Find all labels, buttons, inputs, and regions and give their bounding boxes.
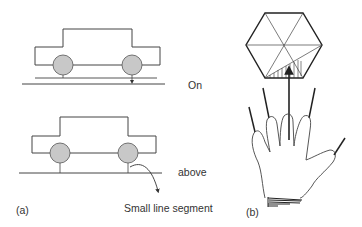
panel-label-a: (a): [16, 204, 29, 216]
hand: [249, 88, 345, 207]
car-body-outline: [35, 29, 160, 65]
car-above-ground: [19, 117, 162, 191]
car-body-outline: [32, 117, 156, 153]
rod-ring: [263, 88, 269, 118]
car-on-ground: [22, 29, 165, 84]
wheel-front: [50, 143, 70, 163]
wheel-rear: [122, 55, 142, 75]
wheel-front: [53, 55, 73, 75]
label-on: On: [188, 79, 202, 91]
annotation-arrow: [130, 165, 158, 191]
rod-thumb: [334, 138, 345, 155]
hatched-triangle: [270, 60, 301, 78]
rod-pinky: [249, 107, 255, 132]
figure: On above Small line segment (a): [0, 0, 362, 227]
label-small-line-segment: Small line segment: [124, 202, 213, 214]
rod-index: [309, 88, 315, 118]
wheel-rear: [118, 143, 138, 163]
panel-label-b: (b): [246, 206, 259, 218]
label-above: above: [178, 166, 207, 178]
hand-outline: [252, 114, 335, 198]
hexagon: [246, 13, 322, 78]
wrist-cuff: [268, 197, 302, 207]
